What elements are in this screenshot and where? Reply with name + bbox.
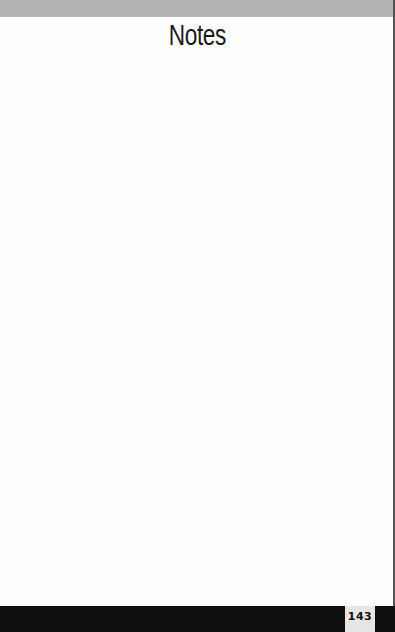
notes-page: Notes 143 bbox=[0, 0, 395, 632]
page-title: Notes bbox=[43, 19, 351, 51]
page-number: 143 bbox=[345, 606, 375, 632]
notes-blank-area bbox=[0, 60, 393, 606]
header-band bbox=[0, 0, 395, 17]
footer-bar bbox=[0, 606, 395, 632]
